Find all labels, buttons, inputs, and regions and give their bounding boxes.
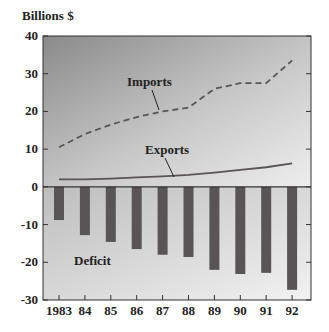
y-tick-label: -30 — [21, 292, 38, 307]
annotation-imports: Imports — [127, 74, 172, 89]
x-tick-label: 89 — [208, 303, 222, 318]
x-tick-label: 88 — [182, 303, 196, 318]
deficit-bar — [80, 187, 90, 235]
annotation-exports: Exports — [145, 142, 189, 157]
deficit-bar — [158, 187, 168, 255]
deficit-bar — [54, 187, 64, 220]
y-tick-label: 20 — [25, 103, 38, 118]
chart: Billions $ 403020100-10-20-3019838485868… — [0, 0, 329, 332]
y-tick-label: -20 — [21, 254, 38, 269]
deficit-bar — [209, 187, 219, 270]
deficit-bar — [132, 187, 142, 249]
chart-plot: 403020100-10-20-301983848586878889909192… — [0, 0, 329, 332]
y-tick-label: 0 — [32, 179, 39, 194]
x-tick-label: 91 — [260, 303, 273, 318]
x-tick-label: 90 — [234, 303, 247, 318]
x-tick-label: 1983 — [46, 303, 73, 318]
plot-background-top — [43, 36, 311, 187]
y-tick-label: -10 — [21, 217, 38, 232]
deficit-bar — [235, 187, 245, 274]
x-tick-label: 84 — [78, 303, 92, 318]
deficit-bar — [106, 187, 116, 242]
x-tick-label: 85 — [104, 303, 118, 318]
x-tick-label: 92 — [286, 303, 299, 318]
deficit-bar — [287, 187, 297, 290]
y-tick-label: 40 — [25, 28, 38, 43]
x-tick-label: 86 — [130, 303, 144, 318]
y-tick-label: 30 — [25, 66, 38, 81]
y-tick-label: 10 — [25, 141, 38, 156]
annotation-deficit: Deficit — [74, 253, 111, 268]
x-tick-label: 87 — [156, 303, 170, 318]
deficit-bar — [184, 187, 194, 257]
deficit-bar — [261, 187, 271, 273]
